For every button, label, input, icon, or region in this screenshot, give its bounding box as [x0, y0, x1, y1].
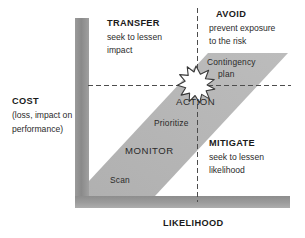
quadrant-avoid-desc-line1: prevent exposure [209, 23, 275, 33]
band-label-action: ACTION [176, 96, 215, 107]
band-label-monitor: MONITOR [125, 145, 174, 156]
cost-axis-title: COST [12, 96, 39, 107]
band-label-prioritize: Prioritize [154, 119, 189, 129]
band-label-scan: Scan [110, 176, 130, 186]
cost-axis-subtitle-line1: (loss, impact on [12, 110, 72, 120]
quadrant-avoid-desc-line2: to the risk [209, 36, 246, 46]
quadrant-transfer-title: TRANSFER [107, 18, 160, 29]
band-label-contingency-plan-line1: Contingency [207, 58, 256, 68]
cost-axis-bar [75, 18, 89, 196]
quadrant-mitigate-desc-line2: likelihood [209, 165, 245, 175]
quadrant-transfer-desc-line2: impact [107, 45, 132, 55]
quadrant-avoid-title: AVOID [216, 9, 246, 20]
likelihood-axis-bar [75, 196, 290, 208]
cost-axis-subtitle-line2: performance) [12, 124, 63, 134]
quadrant-mitigate-title: MITIGATE [209, 138, 255, 149]
quadrant-mitigate-desc-line1: seek to lessen [209, 152, 264, 162]
band-label-contingency-plan-line2: plan [218, 70, 235, 80]
quadrant-transfer-desc-line1: seek to lessen [107, 32, 162, 42]
risk-matrix-diagram: COST (loss, impact on performance) LIKEL… [0, 0, 305, 238]
likelihood-axis-title: LIKELIHOOD [163, 218, 224, 229]
